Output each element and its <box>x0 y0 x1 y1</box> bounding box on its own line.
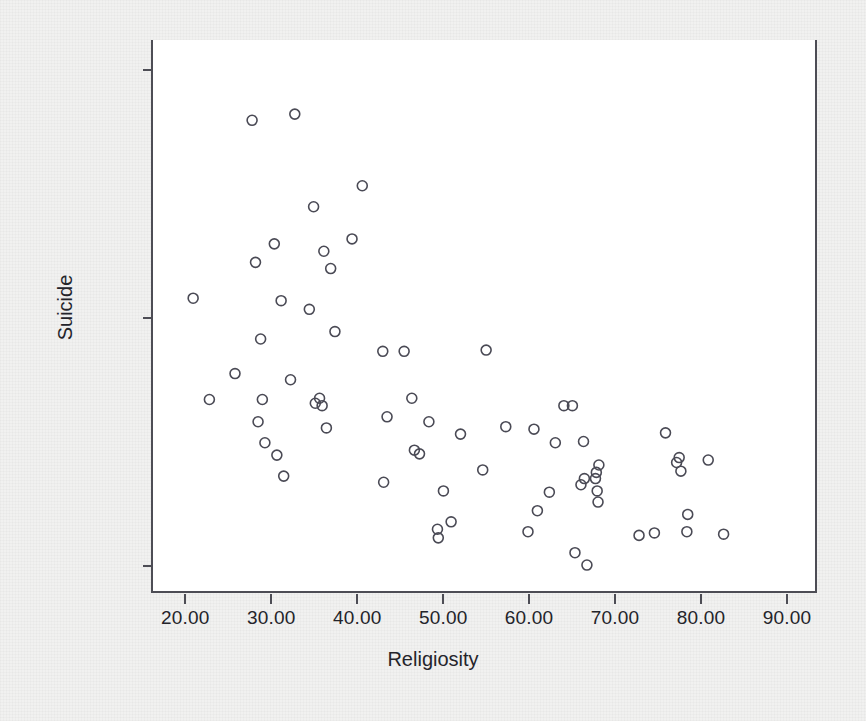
data-point <box>272 450 282 460</box>
data-point <box>378 346 388 356</box>
data-point <box>532 506 542 516</box>
data-point <box>579 437 589 447</box>
data-point <box>661 428 671 438</box>
x-tick-mark <box>270 594 272 604</box>
x-axis-title: Religiosity <box>0 648 866 671</box>
data-point <box>326 264 336 274</box>
data-point <box>438 486 448 496</box>
data-point <box>703 455 713 465</box>
data-point <box>321 423 331 433</box>
data-point <box>279 471 289 481</box>
data-point <box>382 412 392 422</box>
x-tick-label: 90.00 <box>763 607 812 629</box>
x-tick-label: 20.00 <box>161 607 210 629</box>
x-tick-label: 80.00 <box>677 607 726 629</box>
data-point <box>399 346 409 356</box>
x-tick-mark <box>528 594 530 604</box>
data-point <box>260 438 270 448</box>
data-point <box>256 334 266 344</box>
data-point <box>290 109 300 119</box>
scatterplot-figure: 0.0020.0040.00 20.0030.0040.0050.0060.00… <box>0 0 866 721</box>
data-point <box>357 181 367 191</box>
y-tick-mark <box>143 317 152 319</box>
data-point <box>251 257 261 267</box>
data-point <box>719 529 729 539</box>
data-point <box>276 296 286 306</box>
x-tick-mark <box>442 594 444 604</box>
data-point <box>550 438 560 448</box>
data-point <box>446 517 456 527</box>
data-point <box>649 528 659 538</box>
x-tick-mark <box>700 594 702 604</box>
data-point <box>330 327 340 337</box>
y-axis-title: Suicide <box>54 228 77 388</box>
x-tick-label: 30.00 <box>247 607 296 629</box>
y-tick-mark <box>143 565 152 567</box>
data-point <box>570 548 580 558</box>
data-point <box>407 393 417 403</box>
data-point <box>634 530 644 540</box>
data-point <box>204 395 214 405</box>
data-point <box>347 234 357 244</box>
data-point <box>593 497 603 507</box>
data-point <box>682 527 692 537</box>
data-point <box>188 293 198 303</box>
data-point <box>501 422 511 432</box>
data-point <box>309 202 319 212</box>
data-point <box>247 115 257 125</box>
x-tick-label: 70.00 <box>591 607 640 629</box>
data-point <box>424 417 434 427</box>
y-tick-mark <box>143 69 152 71</box>
data-point <box>253 417 263 427</box>
data-point <box>523 527 533 537</box>
data-point <box>304 304 314 314</box>
x-tick-label: 60.00 <box>505 607 554 629</box>
data-point <box>529 424 539 434</box>
x-tick-mark <box>614 594 616 604</box>
data-point <box>544 487 554 497</box>
x-tick-mark <box>786 594 788 604</box>
data-point <box>478 465 488 475</box>
data-point <box>257 395 267 405</box>
data-point <box>269 239 279 249</box>
data-point <box>676 466 686 476</box>
data-point <box>683 509 693 519</box>
data-points-layer <box>153 40 815 591</box>
x-tick-mark <box>356 594 358 604</box>
data-point <box>286 375 296 385</box>
data-point <box>230 369 240 379</box>
data-point <box>319 246 329 256</box>
x-tick-mark <box>184 594 186 604</box>
data-point <box>592 486 602 496</box>
data-point <box>582 560 592 570</box>
x-tick-label: 40.00 <box>333 607 382 629</box>
plot-area <box>151 40 817 593</box>
data-point <box>379 477 389 487</box>
x-tick-label: 50.00 <box>419 607 468 629</box>
data-point <box>481 345 491 355</box>
data-point <box>456 429 466 439</box>
